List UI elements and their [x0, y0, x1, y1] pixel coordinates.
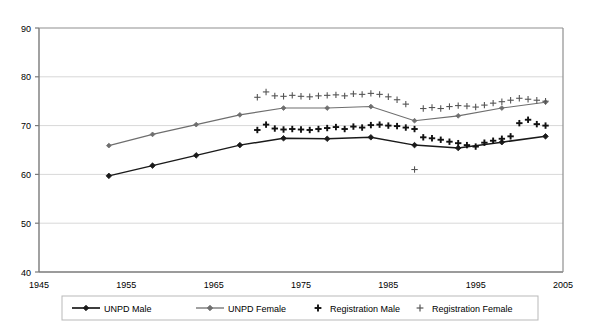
legend-label: UNPD Male [104, 304, 152, 314]
legend-label: UNPD Female [228, 304, 286, 314]
x-tick-label: 1965 [204, 280, 224, 290]
legend-label: Registration Male [330, 304, 400, 314]
life-expectancy-chart: 405060708090 194519551965197519851995200… [0, 0, 600, 335]
y-tick-label: 70 [21, 121, 31, 131]
legend-label: Registration Female [432, 304, 513, 314]
y-tick-label: 90 [21, 24, 31, 34]
x-tick-label: 1995 [466, 280, 486, 290]
y-tick-label: 40 [21, 268, 31, 278]
chart-legend: UNPD MaleUNPD FemaleRegistration MaleReg… [62, 296, 538, 320]
y-tick-label: 50 [21, 219, 31, 229]
x-tick-label: 1955 [116, 280, 136, 290]
x-tick-label: 1975 [291, 280, 311, 290]
x-tick-label: 1985 [378, 280, 398, 290]
x-tick-label: 1945 [29, 280, 49, 290]
y-tick-label: 80 [21, 72, 31, 82]
x-tick-label: 2005 [553, 280, 573, 290]
y-tick-label: 60 [21, 170, 31, 180]
chart-canvas: 405060708090 194519551965197519851995200… [0, 0, 600, 335]
